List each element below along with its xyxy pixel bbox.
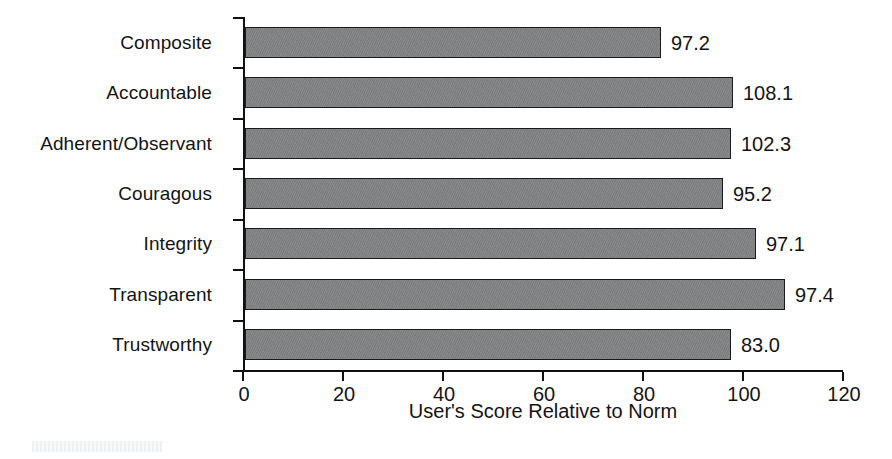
y-axis-tick bbox=[233, 168, 243, 170]
category-label: Adherent/Observant bbox=[0, 134, 212, 153]
category-label: Transparent bbox=[0, 285, 212, 304]
bar bbox=[245, 178, 723, 209]
category-axis-labels: CompositeAccountableAdherent/ObservantCo… bbox=[0, 17, 228, 370]
x-axis-tick bbox=[542, 372, 544, 381]
category-label: Composite bbox=[0, 33, 212, 52]
category-label: Trustworthy bbox=[0, 335, 212, 354]
category-label: Couragous bbox=[0, 184, 212, 203]
bar bbox=[245, 128, 731, 159]
x-axis-title: User's Score Relative to Norm bbox=[243, 400, 843, 422]
x-axis-tick bbox=[742, 372, 744, 381]
y-axis-tick bbox=[233, 269, 243, 271]
x-axis-tick bbox=[842, 372, 844, 381]
bar-value-label: 95.2 bbox=[733, 184, 772, 204]
bar-value-label: 108.1 bbox=[743, 83, 793, 103]
bar bbox=[245, 228, 756, 259]
scan-artifact bbox=[32, 441, 162, 452]
bar bbox=[245, 77, 733, 108]
y-axis-tick bbox=[233, 320, 243, 322]
bar-value-label: 83.0 bbox=[741, 335, 780, 355]
bar-value-label: 97.2 bbox=[671, 33, 710, 53]
x-axis-tick bbox=[442, 372, 444, 381]
category-label: Accountable bbox=[0, 83, 212, 102]
x-axis-tick bbox=[642, 372, 644, 381]
bar bbox=[245, 279, 785, 310]
plot-area: 02040608010012097.2108.1102.395.297.197.… bbox=[243, 17, 843, 370]
category-label: Integrity bbox=[0, 234, 212, 253]
y-axis-tick bbox=[233, 219, 243, 221]
bar-value-label: 102.3 bbox=[741, 134, 791, 154]
bar-chart: CompositeAccountableAdherent/ObservantCo… bbox=[0, 0, 892, 459]
bar bbox=[245, 27, 661, 58]
y-axis-tick bbox=[233, 17, 243, 19]
x-axis-tick bbox=[242, 372, 244, 381]
y-axis-tick bbox=[233, 370, 243, 372]
bar bbox=[245, 329, 731, 360]
x-axis-tick bbox=[342, 372, 344, 381]
y-axis-tick bbox=[233, 67, 243, 69]
bar-value-label: 97.1 bbox=[766, 234, 805, 254]
bar-value-label: 97.4 bbox=[795, 285, 834, 305]
y-axis-tick bbox=[233, 118, 243, 120]
